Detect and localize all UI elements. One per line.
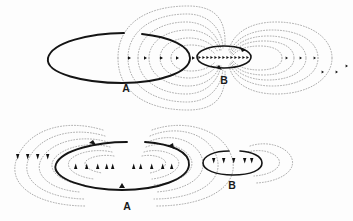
figure-background [0,0,353,221]
label-a-bottom: A [123,200,131,212]
label-b-top: B [220,74,228,86]
figure-root: A B [0,0,353,221]
label-b-bottom: B [228,179,236,191]
magnetic-field-diagram: A B [0,0,353,221]
label-a-top: A [122,82,130,94]
